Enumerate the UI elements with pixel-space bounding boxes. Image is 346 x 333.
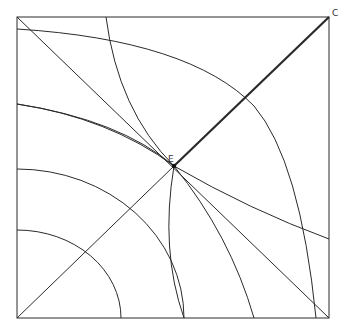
geometric-diagram: E C bbox=[0, 0, 346, 333]
arc-large bbox=[17, 104, 174, 166]
arc-medium bbox=[17, 169, 184, 318]
arc-through-e-right bbox=[174, 166, 329, 239]
arc-e-bottom bbox=[17, 104, 174, 166]
diagonal-a-to-e bbox=[17, 166, 174, 318]
point-e bbox=[172, 164, 176, 168]
segment-e-to-c bbox=[174, 17, 329, 166]
arc-small bbox=[17, 230, 121, 318]
arc-top-through-e bbox=[106, 17, 254, 318]
label-e: E bbox=[168, 154, 174, 164]
label-c: C bbox=[332, 8, 338, 18]
